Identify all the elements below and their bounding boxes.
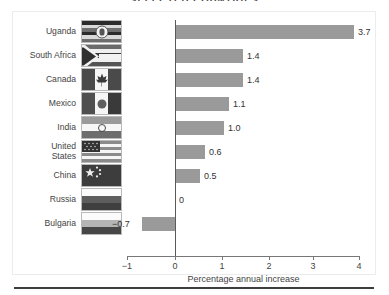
flag-south-africa bbox=[81, 44, 122, 67]
row-label-united-states-2: States bbox=[14, 152, 76, 162]
bar-china bbox=[176, 169, 200, 183]
flag-india bbox=[81, 116, 122, 139]
flag-russia bbox=[81, 188, 122, 211]
chart-title: SELECTED COUNTRIES bbox=[0, 0, 389, 1]
x-tick-neg1 bbox=[127, 256, 128, 260]
x-axis-line bbox=[127, 256, 360, 257]
bar-india bbox=[176, 121, 224, 135]
row-label-uganda: Uganda bbox=[14, 27, 76, 37]
x-tick-2 bbox=[269, 256, 270, 260]
flag-mexico bbox=[81, 92, 122, 115]
row-label-mexico: Mexico bbox=[14, 99, 76, 109]
value-label-united-states: 0.6 bbox=[209, 147, 222, 157]
value-label-russia: 0 bbox=[179, 195, 184, 205]
x-tick-1 bbox=[222, 256, 223, 260]
flag-united-states bbox=[81, 140, 122, 163]
x-tick-3 bbox=[313, 256, 314, 260]
row-label-russia: Russia bbox=[14, 195, 76, 205]
zero-axis-line bbox=[175, 20, 176, 257]
flag-uganda bbox=[81, 20, 122, 43]
row-label-south-africa: South Africa bbox=[14, 51, 76, 61]
bar-uganda bbox=[176, 25, 354, 39]
bar-canada bbox=[176, 73, 243, 87]
x-tick-label-3: 3 bbox=[303, 261, 323, 271]
bar-mexico bbox=[176, 97, 229, 111]
value-label-india: 1.0 bbox=[228, 123, 241, 133]
x-tick-4 bbox=[359, 256, 360, 260]
x-axis-title: Percentage annual increase bbox=[127, 274, 360, 284]
x-tick-label-neg1: −1 bbox=[117, 261, 137, 271]
value-label-south-africa: 1.4 bbox=[247, 51, 260, 61]
x-tick-0 bbox=[175, 256, 176, 260]
row-label-china: China bbox=[14, 171, 76, 181]
x-tick-label-1: 1 bbox=[212, 261, 232, 271]
footer-rule bbox=[14, 287, 374, 289]
value-label-uganda: 3.7 bbox=[358, 27, 371, 37]
value-label-canada: 1.4 bbox=[247, 75, 260, 85]
x-tick-label-2: 2 bbox=[259, 261, 279, 271]
figure: SELECTED COUNTRIES Uganda South Africa C… bbox=[0, 0, 389, 295]
row-label-bulgaria: Bulgaria bbox=[14, 219, 76, 229]
row-label-india: India bbox=[14, 123, 76, 133]
row-label-canada: Canada bbox=[14, 75, 76, 85]
x-tick-label-4: 4 bbox=[349, 261, 369, 271]
value-label-china: 0.5 bbox=[204, 171, 217, 181]
bar-south-africa bbox=[176, 49, 243, 63]
x-tick-label-0: 0 bbox=[165, 261, 185, 271]
value-label-bulgaria: −0.7 bbox=[112, 219, 130, 229]
bar-bulgaria bbox=[142, 217, 176, 231]
flag-canada bbox=[81, 68, 122, 91]
flag-china bbox=[81, 164, 122, 187]
value-label-mexico: 1.1 bbox=[233, 99, 246, 109]
bar-united-states bbox=[176, 145, 205, 159]
